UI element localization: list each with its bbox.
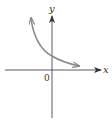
origin-label: 0 [44, 74, 50, 83]
graph-figure: y x 0 [0, 0, 112, 123]
graph-svg [0, 0, 112, 123]
decay-curve [31, 18, 79, 66]
y-axis-label: y [49, 4, 55, 14]
x-axis-label: x [103, 65, 109, 75]
